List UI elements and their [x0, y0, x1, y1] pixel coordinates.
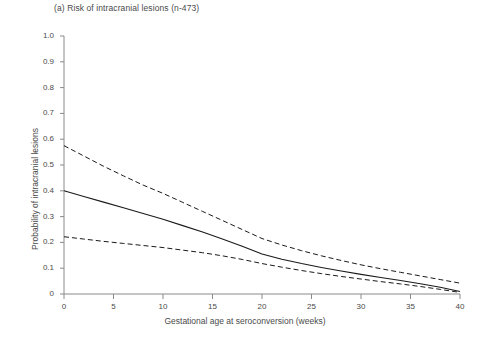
data-series-group: [64, 146, 460, 293]
y-axis-ticks: [60, 36, 64, 294]
chart-plot-area: [0, 0, 490, 338]
y-axis-title: Probability of intracranial lesions: [30, 128, 40, 250]
y-tick-label: 0.8: [28, 83, 54, 92]
y-tick-label: 0: [28, 289, 54, 298]
y-tick-label: 0.1: [28, 263, 54, 272]
series-line-dashed: [64, 146, 460, 284]
x-tick-label: 40: [448, 302, 472, 311]
x-tick-label: 25: [300, 302, 324, 311]
y-tick-label: 1.0: [28, 31, 54, 40]
x-axis-title: Gestational age at seroconversion (weeks…: [0, 316, 490, 326]
y-tick-label: 0.7: [28, 108, 54, 117]
series-line-solid: [64, 191, 460, 292]
x-tick-label: 30: [349, 302, 373, 311]
x-tick-label: 20: [250, 302, 274, 311]
axis-lines: [64, 36, 460, 294]
x-tick-label: 15: [201, 302, 225, 311]
x-axis-ticks: [64, 294, 460, 299]
x-tick-label: 5: [102, 302, 126, 311]
x-tick-label: 0: [52, 302, 76, 311]
x-tick-label: 35: [399, 302, 423, 311]
y-tick-label: 0.9: [28, 57, 54, 66]
series-line-dashed: [64, 237, 460, 293]
x-tick-label: 10: [151, 302, 175, 311]
